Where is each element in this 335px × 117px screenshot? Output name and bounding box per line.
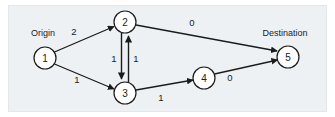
edge-label-4-to-5: 0 bbox=[227, 72, 232, 83]
edge-label-3-to-4: 1 bbox=[158, 92, 163, 103]
edge-3-to-4 bbox=[136, 80, 193, 90]
edge-label-1-to-3: 1 bbox=[74, 74, 79, 85]
edge-1-to-2 bbox=[55, 27, 115, 53]
edge-1-to-3 bbox=[55, 64, 115, 89]
figure-container: 1 2 3 4 5 2 1 1 1 0 1 0 Origin Destinati… bbox=[0, 0, 335, 117]
edge-2-to-5 bbox=[136, 25, 277, 51]
edge-4-to-5 bbox=[215, 60, 278, 74]
destination-label: Destination bbox=[262, 28, 307, 38]
network-graph: 1 2 3 4 5 2 1 1 1 0 1 0 Origin Destinati… bbox=[0, 0, 335, 117]
node-5-label: 5 bbox=[285, 52, 291, 63]
node-1-label: 1 bbox=[42, 53, 48, 64]
edge-label-2-to-3: 1 bbox=[111, 53, 116, 64]
node-3-label: 3 bbox=[122, 88, 128, 99]
origin-label: Origin bbox=[31, 28, 55, 38]
edge-label-3-to-2: 1 bbox=[133, 53, 138, 64]
edge-label-2-to-5: 0 bbox=[189, 17, 194, 28]
node-4-label: 4 bbox=[201, 73, 207, 84]
node-2-label: 2 bbox=[122, 17, 128, 28]
edge-label-1-to-2: 2 bbox=[71, 26, 76, 37]
